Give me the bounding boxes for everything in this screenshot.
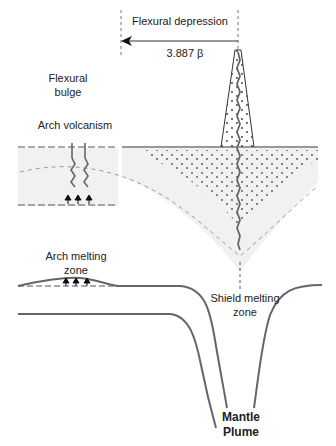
arch-melting-label-line2: zone [36,263,116,277]
flexural-depression-label: Flexural depression [126,14,234,28]
lithosphere-base-line [18,314,216,428]
mantle-plume-label-line2: Plume [213,425,269,440]
shield-melting-label-line2: zone [203,305,287,319]
flexural-bulge-label-line1: Flexural [40,71,96,85]
arch-volcanism-label: Arch volcanism [30,118,120,132]
hotspot-flexure-diagram [0,0,336,446]
arch-melting-label-line1: Arch melting [36,249,116,263]
mantle-plume-label-line1: Mantle [213,410,269,425]
flexural-bulge-label-line2: bulge [40,85,96,99]
arch-melting-zone [18,278,118,286]
shield-melting-label-line1: Shield melting [203,291,287,305]
distance-label: 3.887 β [155,46,215,60]
